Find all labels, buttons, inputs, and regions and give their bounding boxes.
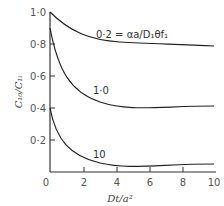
curve-10 (50, 108, 214, 166)
x-tick-label: 6 (147, 177, 153, 188)
y-tick-label: 1·0 (30, 7, 46, 18)
curve-label-0-2: 0·2 = αa/D₁θf₁ (96, 29, 168, 40)
x-tick-label: 0 (43, 177, 49, 188)
curve-label-10: 10 (93, 149, 106, 160)
x-tick-label: 8 (180, 177, 186, 188)
y-tick-label: 0·6 (30, 71, 46, 82)
x-tick-label: 4 (114, 177, 120, 188)
curve-label-1-0: 1·0 (93, 85, 109, 96)
y-axis-label: C₁₀/C₁ᵢ (13, 76, 24, 109)
x-axis-label: Dt/a² (106, 193, 132, 204)
y-tick-label: 0·4 (30, 103, 46, 114)
chart: 0·2 0·4 0·6 0·8 1·0 0 2 4 6 8 10 0·2 = α… (0, 0, 224, 206)
y-tick-label: 0·2 (30, 135, 46, 146)
x-tick-label: 2 (81, 177, 87, 188)
x-ticks (84, 167, 183, 172)
x-tick-label: 10 (208, 177, 221, 188)
y-tick-label: 0·8 (30, 39, 46, 50)
